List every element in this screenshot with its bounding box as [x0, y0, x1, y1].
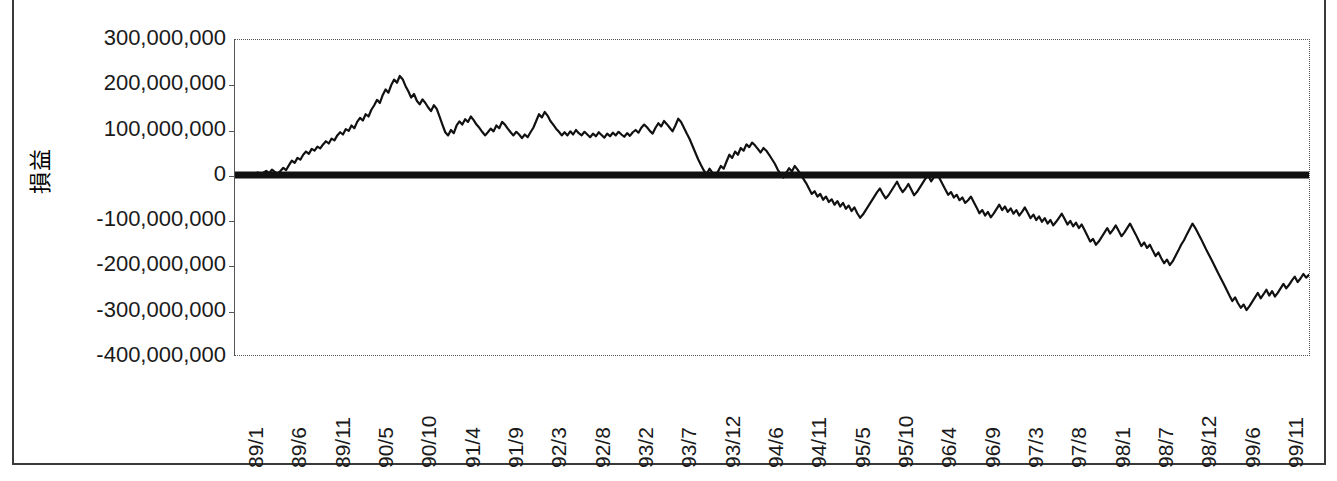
x-tick-label: 90/10: [417, 415, 441, 468]
x-tick-label: 89/6: [287, 427, 311, 468]
plot-svg: [235, 40, 1309, 355]
x-tick-label: 96/9: [981, 427, 1005, 468]
x-tick-label: 95/5: [851, 427, 875, 468]
x-tick-label: 94/6: [764, 427, 788, 468]
x-axis-tick-labels: 89/189/689/1190/590/1091/491/992/392/893…: [234, 356, 1310, 476]
x-tick-label: 89/11: [331, 417, 355, 468]
y-tick-label: -100,000,000: [26, 206, 226, 232]
x-tick-label: 99/11: [1284, 417, 1308, 468]
x-tick-label: 89/1: [244, 427, 268, 468]
x-tick-label: 90/5: [374, 427, 398, 468]
y-tick-label: -400,000,000: [26, 342, 226, 368]
x-tick-label: 98/7: [1154, 427, 1178, 468]
x-tick-label: 97/8: [1067, 427, 1091, 468]
x-tick-label: 95/10: [894, 415, 918, 468]
plot-area: [234, 39, 1310, 356]
y-tick-label: 0: [26, 161, 226, 187]
y-tick-mark: [229, 176, 235, 177]
x-tick-label: 92/8: [591, 427, 615, 468]
y-tick-label: 300,000,000: [26, 25, 226, 51]
x-tick-label: 99/6: [1241, 427, 1265, 468]
y-tick-label: -200,000,000: [26, 251, 226, 277]
y-tick-label: 200,000,000: [26, 70, 226, 96]
x-tick-label: 93/2: [634, 427, 658, 468]
x-tick-label: 96/4: [937, 427, 961, 468]
y-tick-mark: [229, 312, 235, 313]
x-tick-label: 91/4: [461, 427, 485, 468]
x-tick-label: 91/9: [504, 427, 528, 468]
y-tick-mark: [229, 131, 235, 132]
data-series-line: [235, 76, 1309, 310]
x-tick-label: 97/3: [1024, 427, 1048, 468]
y-tick-mark: [229, 85, 235, 86]
x-tick-label: 93/12: [721, 415, 745, 468]
x-tick-label: 98/1: [1111, 427, 1135, 468]
profit-loss-chart: 損益 300,000,000200,000,000100,000,0000-10…: [0, 0, 1337, 481]
x-tick-label: 94/11: [807, 417, 831, 468]
y-tick-label: -300,000,000: [26, 297, 226, 323]
y-tick-mark: [229, 266, 235, 267]
x-tick-label: 93/7: [677, 427, 701, 468]
y-axis-tick-labels: 300,000,000200,000,000100,000,0000-100,0…: [14, 0, 226, 400]
y-tick-label: 100,000,000: [26, 116, 226, 142]
x-tick-label: 92/3: [547, 427, 571, 468]
x-tick-label: 98/12: [1197, 415, 1221, 468]
y-tick-mark: [229, 221, 235, 222]
